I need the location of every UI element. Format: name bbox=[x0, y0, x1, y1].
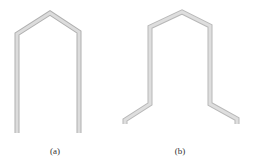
figure: (a) (b) bbox=[0, 0, 254, 162]
shape-b bbox=[125, 12, 237, 124]
caption-b: (b) bbox=[165, 146, 195, 156]
shapes-canvas bbox=[0, 0, 254, 162]
caption-a: (a) bbox=[40, 146, 70, 156]
shape-a bbox=[17, 13, 79, 133]
